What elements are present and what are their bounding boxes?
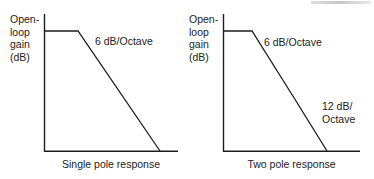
y-axis-line-2: loop: [189, 26, 209, 38]
two-pole-y-axis-label: Open-loopgain(dB): [189, 13, 223, 63]
two-pole-caption: Two pole response: [223, 158, 360, 171]
y-axis-line-1: Open-: [10, 13, 39, 25]
single-pole-caption: Single pole response: [44, 158, 178, 171]
two-pole-slope-label-12db: 12 dB/Octave: [322, 100, 355, 125]
two-pole-slope-label-6db: 6 dB/Octave: [264, 36, 322, 49]
y-axis-line-4: (dB): [189, 51, 209, 63]
y-axis-line-3: gain: [10, 38, 30, 50]
figure-container: Open-loopgain(dB) 6 dB/Octave Single pol…: [0, 0, 374, 179]
single-pole-slope-label-6db: 6 dB/Octave: [95, 35, 153, 48]
y-axis-line-2: loop: [10, 26, 30, 38]
two-pole-axes: [223, 14, 360, 152]
two-pole-response-curve: [224, 31, 327, 151]
single-pole-y-axis-label: Open-loopgain(dB): [10, 13, 44, 63]
slope-label-line-2: Octave: [322, 113, 355, 125]
single-pole-response-curve: [45, 31, 160, 151]
slope-label-text: 6 dB/Octave: [264, 36, 322, 48]
y-axis-line-1: Open-: [189, 13, 218, 25]
y-axis-line-3: gain: [189, 38, 209, 50]
slope-label-text: 6 dB/Octave: [95, 35, 153, 47]
y-axis-line-4: (dB): [10, 51, 30, 63]
slope-label-line-1: 12 dB/: [322, 100, 352, 112]
plot-lines-svg: [0, 0, 374, 179]
